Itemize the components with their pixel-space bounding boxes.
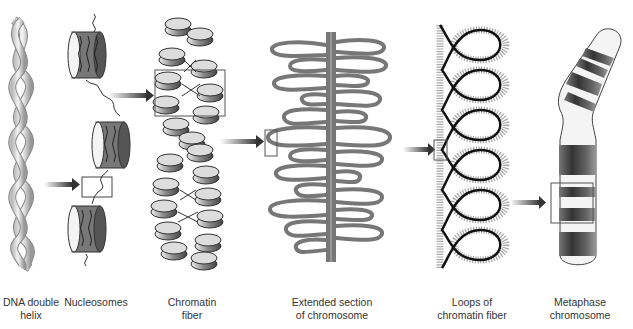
arrow-icon <box>220 135 264 148</box>
label-extended-section: Extended section of chromosome <box>284 296 380 322</box>
extended-section-illustration <box>265 32 390 262</box>
label-metaphase-chromosome: Metaphase chromosome <box>540 296 620 322</box>
chromatin-diagram <box>0 0 633 329</box>
label-dna-double-helix: DNA double helix <box>2 296 60 322</box>
dna-helix-illustration <box>12 20 30 268</box>
label-chromatin-fiber: Chromatin fiber <box>162 296 222 322</box>
metaphase-chromosome-illustration <box>551 29 621 265</box>
arrow-icon <box>44 178 80 191</box>
nucleosomes-illustration <box>68 14 130 266</box>
arrow-icon <box>510 196 546 209</box>
arrow-icon <box>403 143 435 156</box>
arrow-icon <box>108 89 154 102</box>
chromatin-fiber-illustration <box>151 18 225 270</box>
label-nucleosomes: Nucleosomes <box>62 296 130 309</box>
label-loops-of-chromatin-fiber: Loops of chromatin fiber <box>432 296 512 322</box>
loops-illustration <box>434 25 506 268</box>
